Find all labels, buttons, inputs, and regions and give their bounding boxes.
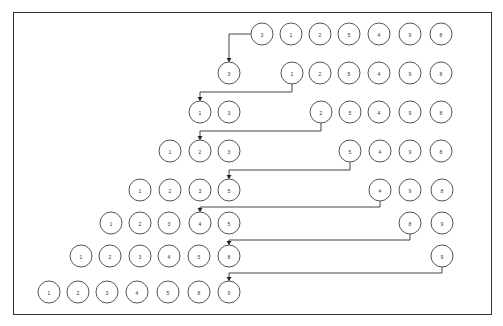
node-4: 4 (189, 212, 211, 234)
node-1: 1 (281, 62, 303, 84)
connector-arrow (200, 201, 380, 212)
node-5: 5 (338, 62, 360, 84)
node-9: 9 (399, 62, 421, 84)
node-2: 2 (67, 281, 89, 303)
node-value: 2 (319, 32, 322, 38)
node-value: 3 (139, 254, 142, 260)
node-9: 9 (399, 101, 421, 123)
node-2: 2 (309, 23, 331, 45)
node-value: 1 (110, 221, 113, 227)
node-2: 2 (309, 62, 331, 84)
node-value: 2 (77, 290, 80, 296)
node-8: 8 (431, 179, 453, 201)
node-value: 3 (199, 188, 202, 194)
node-value: 2 (169, 188, 172, 194)
node-value: 2 (319, 71, 322, 77)
node-value: 9 (409, 149, 412, 155)
node-1: 1 (189, 101, 211, 123)
node-4: 4 (369, 179, 391, 201)
connector-arrow (200, 123, 321, 140)
node-3: 3 (218, 62, 240, 84)
node-8: 8 (430, 140, 452, 162)
node-value: 5 (228, 188, 231, 194)
node-value: 1 (199, 110, 202, 116)
node-layer: 3125498312549813254981235498123549812345… (38, 23, 453, 303)
node-value: 4 (136, 290, 139, 296)
node-value: 4 (379, 149, 382, 155)
node-5: 5 (338, 23, 360, 45)
node-value: 8 (440, 110, 443, 116)
node-value: 8 (441, 188, 444, 194)
node-value: 4 (378, 110, 381, 116)
node-8: 8 (430, 23, 452, 45)
step-row-7: 1234589 (70, 245, 453, 267)
node-8: 8 (430, 101, 452, 123)
node-value: 1 (80, 254, 83, 260)
node-value: 9 (409, 71, 412, 77)
node-4: 4 (368, 62, 390, 84)
node-value: 5 (348, 32, 351, 38)
node-2: 2 (310, 101, 332, 123)
node-3: 3 (218, 101, 240, 123)
node-value: 3 (228, 71, 231, 77)
node-value: 3 (228, 110, 231, 116)
node-1: 1 (70, 245, 92, 267)
node-value: 2 (139, 221, 142, 227)
node-value: 9 (441, 221, 444, 227)
node-9: 9 (218, 281, 240, 303)
node-8: 8 (218, 245, 240, 267)
arrowhead-icon (227, 241, 232, 245)
node-5: 5 (218, 179, 240, 201)
node-value: 8 (198, 290, 201, 296)
step-row-8: 1234589 (38, 281, 240, 303)
arrowhead-icon (198, 136, 203, 140)
step-row-2: 3125498 (218, 62, 452, 84)
node-value: 4 (379, 188, 382, 194)
node-3: 3 (189, 179, 211, 201)
insertion-sort-diagram: 3125498312549813254981235498123549812345… (0, 0, 503, 326)
node-2: 2 (159, 179, 181, 201)
node-value: 9 (441, 254, 444, 260)
node-3: 3 (251, 23, 273, 45)
arrowhead-icon (227, 58, 232, 62)
node-value: 4 (199, 221, 202, 227)
step-row-6: 1234589 (100, 212, 453, 234)
node-value: 5 (348, 71, 351, 77)
arrowhead-icon (198, 208, 203, 212)
node-1: 1 (129, 179, 151, 201)
node-value: 1 (290, 32, 293, 38)
node-value: 9 (409, 188, 412, 194)
node-value: 3 (261, 32, 264, 38)
step-row-3: 1325498 (189, 101, 452, 123)
node-4: 4 (368, 101, 390, 123)
arrowhead-icon (227, 277, 232, 281)
node-5: 5 (339, 140, 361, 162)
node-9: 9 (399, 140, 421, 162)
arrowhead-icon (198, 97, 203, 101)
connector-arrow (229, 267, 442, 281)
node-3: 3 (96, 281, 118, 303)
node-9: 9 (431, 212, 453, 234)
node-8: 8 (188, 281, 210, 303)
node-value: 9 (409, 110, 412, 116)
node-2: 2 (189, 140, 211, 162)
node-value: 5 (228, 221, 231, 227)
node-4: 4 (126, 281, 148, 303)
step-row-4: 1235498 (159, 140, 452, 162)
node-value: 8 (409, 221, 412, 227)
node-value: 3 (106, 290, 109, 296)
node-1: 1 (100, 212, 122, 234)
node-3: 3 (129, 245, 151, 267)
node-value: 5 (198, 254, 201, 260)
node-4: 4 (369, 140, 391, 162)
node-4: 4 (368, 23, 390, 45)
node-3: 3 (158, 212, 180, 234)
node-9: 9 (431, 245, 453, 267)
node-value: 1 (48, 290, 51, 296)
connector-arrow (229, 234, 410, 245)
node-value: 4 (168, 254, 171, 260)
node-value: 8 (440, 32, 443, 38)
step-row-1: 3125498 (251, 23, 452, 45)
node-value: 2 (199, 149, 202, 155)
node-value: 1 (291, 71, 294, 77)
